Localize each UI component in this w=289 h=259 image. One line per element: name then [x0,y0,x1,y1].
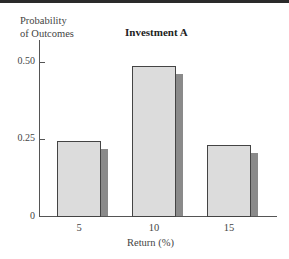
x-tick-label: 5 [64,222,94,233]
x-tick-label: 10 [139,222,169,233]
x-tick-label: 15 [214,222,244,233]
bar-10 [132,66,176,217]
y-tick-050 [40,62,45,63]
bar-5 [57,141,101,217]
y-axis-label: Probability of Outcomes [20,14,74,40]
y-axis-label-line-2: of Outcomes [20,27,74,40]
top-border [0,0,289,3]
y-axis-label-line-1: Probability [20,14,74,27]
y-tick-025 [40,139,45,140]
bar-shadow [100,149,108,216]
chart-title: Investment A [125,26,188,38]
chart-figure: Probability of Outcomes Investment A 0.5… [0,0,289,259]
y-tick-label: 0 [5,210,35,221]
y-tick-label: 0.50 [5,55,35,66]
bar-shadow [250,153,258,216]
bar-15 [207,145,251,217]
y-tick-label: 0.25 [5,132,35,143]
y-axis [39,40,40,217]
bar-shadow [175,74,183,216]
x-axis-label: Return (%) [127,237,174,248]
